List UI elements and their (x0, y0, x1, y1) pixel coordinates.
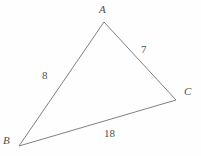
triangle-outline (0, 0, 201, 156)
vertex-label-c: C (184, 86, 191, 97)
side-length-label-bc: 18 (104, 128, 115, 139)
triangle-figure: A B C 8 7 18 (0, 0, 201, 156)
vertex-label-b: B (3, 135, 10, 146)
triangle-polygon (19, 22, 176, 146)
vertex-label-a: A (99, 4, 106, 15)
side-length-label-ac: 7 (141, 44, 147, 55)
side-length-label-ab: 8 (42, 70, 48, 81)
